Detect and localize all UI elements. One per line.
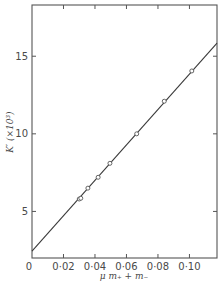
- y-tick-label: 5: [22, 206, 28, 217]
- data-point: [108, 161, 112, 165]
- x-tick-label: 0·02: [52, 261, 74, 272]
- x-tick-label: 0·08: [147, 261, 169, 272]
- data-point: [86, 186, 90, 190]
- data-point: [96, 175, 100, 179]
- data-point: [135, 132, 139, 136]
- x-tick-label: 0·10: [178, 261, 200, 272]
- chart: 00·020·040·060·080·1051015 μ m₊ + m₋ K′ …: [0, 0, 221, 287]
- data-point: [79, 196, 83, 200]
- y-axis-label: K′ (×10³): [5, 111, 15, 154]
- y-tick-label: 10: [15, 128, 28, 139]
- fit-line: [32, 43, 217, 251]
- y-tick-label: 15: [15, 51, 28, 62]
- regression-line: [32, 43, 217, 251]
- data-point: [162, 99, 166, 103]
- x-axis-label: μ m₊ + m₋: [100, 271, 149, 281]
- data-point: [190, 69, 194, 73]
- x-tick-label: 0: [26, 261, 32, 272]
